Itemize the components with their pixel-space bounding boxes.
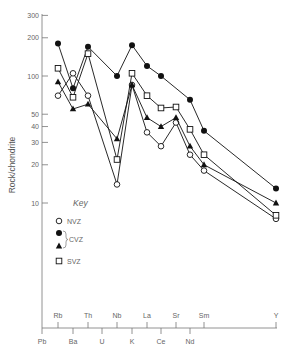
y-tick-label: 40 [31, 123, 39, 130]
legend-filled-triangle-icon [56, 243, 62, 249]
open-circle-marker [55, 93, 61, 99]
open-circle-marker [187, 152, 193, 158]
filled-circle-marker [114, 73, 120, 79]
open-circle-marker [114, 182, 120, 188]
filled-circle-marker [201, 128, 207, 134]
open-circle-marker [144, 130, 150, 136]
legend-title: Key [73, 198, 88, 208]
filled-circle-marker [273, 186, 279, 192]
filled-circle-marker [129, 42, 135, 48]
open-square-marker [187, 127, 193, 133]
open-square-marker [114, 157, 120, 163]
x-tick-label-sr: Sr [173, 312, 181, 319]
x-tick-label-sm: Sm [199, 312, 210, 319]
open-square-marker [129, 71, 135, 77]
open-circle-marker [70, 71, 76, 77]
filled-triangle-marker [144, 114, 150, 120]
x-tick-label-pb: Pb [38, 338, 47, 345]
legend-open-square-icon [56, 258, 62, 264]
x-tick-label-nd: Nd [186, 338, 195, 345]
filled-triangle-marker [173, 114, 179, 120]
y-tick-label: 30 [31, 139, 39, 146]
x-tick-label-u: U [99, 338, 104, 345]
legend: KeyNVZSVZCVZ [56, 198, 89, 265]
open-square-marker [85, 51, 91, 57]
filled-triangle-marker [187, 143, 193, 149]
filled-triangle-marker [273, 200, 279, 206]
axes: 3002001005040302010Rock/chondriteRbThNbL… [7, 12, 279, 345]
filled-circle-marker [55, 41, 61, 47]
series-cvz-circle [55, 41, 279, 192]
filled-triangle-marker [55, 78, 61, 84]
x-tick-label-k: K [130, 338, 135, 345]
filled-circle-marker [144, 63, 150, 69]
series-line [58, 82, 276, 203]
open-square-marker [55, 65, 61, 71]
filled-circle-marker [187, 97, 193, 103]
x-tick-label-y: Y [274, 312, 279, 319]
y-tick-label: 100 [27, 73, 39, 80]
legend-label-cvz: CVZ [69, 236, 84, 243]
open-square-marker [173, 104, 179, 110]
open-circle-marker [201, 168, 207, 174]
y-tick-label: 200 [27, 34, 39, 41]
y-tick-label: 20 [31, 161, 39, 168]
y-tick-label: 300 [27, 12, 39, 19]
spider-diagram: 3002001005040302010Rock/chondriteRbThNbL… [0, 0, 293, 359]
series-line [58, 54, 276, 216]
legend-filled-circle-icon [56, 230, 62, 236]
legend-label-svz: SVZ [67, 258, 81, 265]
x-tick-label-nb: Nb [113, 312, 122, 319]
open-square-marker [158, 105, 164, 111]
x-tick-label-la: La [143, 312, 151, 319]
open-square-marker [144, 93, 150, 99]
open-circle-marker [158, 143, 164, 149]
legend-open-circle-icon [56, 218, 62, 224]
open-square-marker [201, 152, 207, 158]
legend-brace [63, 231, 68, 248]
series-nvz [55, 71, 279, 222]
data-series [55, 41, 279, 222]
series-svz [55, 51, 279, 218]
y-tick-label: 10 [31, 200, 39, 207]
open-square-marker [273, 213, 279, 219]
x-tick-label-th: Th [84, 312, 92, 319]
series-line [58, 44, 276, 189]
x-tick-label-ba: Ba [69, 338, 78, 345]
filled-circle-marker [158, 73, 164, 79]
open-square-marker [70, 94, 76, 100]
y-axis-title: Rock/chondrite [7, 136, 17, 193]
x-tick-label-ce: Ce [157, 338, 166, 345]
x-tick-label-rb: Rb [54, 312, 63, 319]
y-tick-label: 50 [31, 111, 39, 118]
filled-circle-marker [85, 44, 91, 50]
legend-label-nvz: NVZ [67, 218, 82, 225]
filled-triangle-marker [158, 123, 164, 129]
open-circle-marker [85, 93, 91, 99]
